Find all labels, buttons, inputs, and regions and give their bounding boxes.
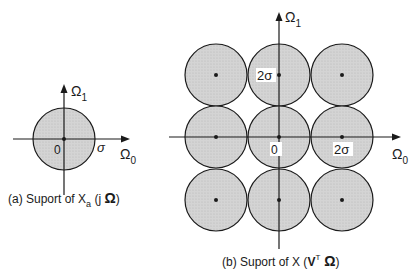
axis-y-label: Ω1 — [71, 83, 87, 103]
radius-label: σ — [97, 140, 106, 155]
y-tick-2sigma: 2σ — [257, 68, 272, 83]
y-axis-arrow-icon — [276, 12, 283, 21]
origin-label: 0 — [271, 143, 278, 157]
origin-dot — [62, 137, 66, 141]
y-axis-arrow-icon — [61, 84, 68, 93]
x-axis-arrow-icon — [392, 134, 401, 141]
origin-label: 0 — [54, 143, 61, 157]
figure-b: 2σ 0 2σ Ω1 Ω0 (b) Suport of X (VT Ω) — [169, 9, 408, 269]
caption-a: (a) Suport of Xa (j Ω) — [8, 190, 120, 209]
x-tick-2sigma: 2σ — [334, 142, 349, 157]
caption-b: (b) Suport of X (VT Ω) — [222, 253, 339, 269]
axis-x-label: Ω0 — [392, 146, 408, 166]
figure-a: Ω1 0 σ Ω0 (a) Suport of Xa (j Ω) — [8, 83, 136, 209]
axis-x-label: Ω0 — [120, 146, 136, 166]
diagram-canvas: Ω1 0 σ Ω0 (a) Suport of Xa (j Ω) — [0, 0, 416, 276]
x-axis-arrow-icon — [121, 136, 130, 143]
axis-y-label: Ω1 — [285, 9, 301, 29]
